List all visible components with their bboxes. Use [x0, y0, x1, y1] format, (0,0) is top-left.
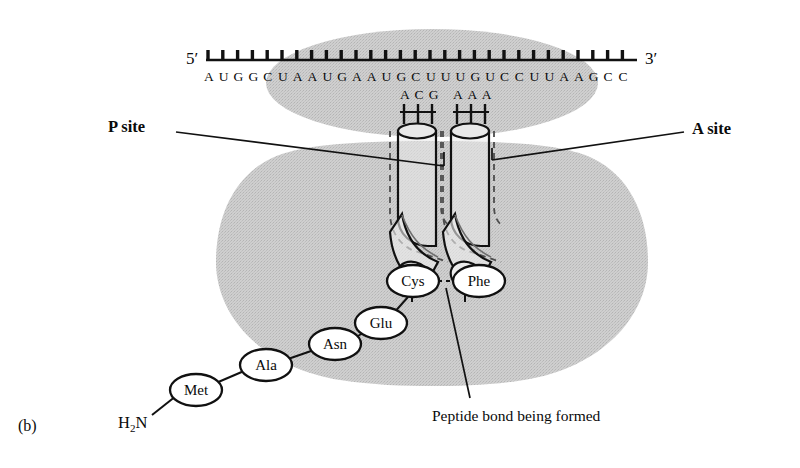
mrna-base: U: [278, 70, 288, 84]
p-site-anticodon-base: A: [400, 88, 410, 102]
mrna-base: U: [485, 70, 495, 84]
mrna-base: A: [293, 70, 303, 84]
a-site-label: A site: [692, 121, 731, 138]
a-site-anticodon-row: A A A: [453, 88, 501, 106]
mrna-base: G: [248, 70, 258, 84]
mrna-base: C: [263, 70, 272, 84]
mrna-base: G: [396, 70, 406, 84]
mrna-base: C: [500, 70, 509, 84]
mrna-base: A: [367, 70, 377, 84]
mrna-base: A: [352, 70, 362, 84]
mrna-base: C: [618, 70, 627, 84]
mrna-base: U: [530, 70, 540, 84]
residue-label-glu: Glu: [370, 316, 393, 331]
mrna-base: A: [574, 70, 584, 84]
mrna-base-row: A U G G C U A A U G A A U G C U U U G U …: [204, 70, 634, 88]
translation-figure: 5′ 3′ A U G G C U A A U G A A U G C U U …: [0, 0, 800, 468]
p-site-anticodon-base: G: [429, 88, 439, 102]
residue-label-cys: Cys: [401, 274, 424, 289]
n-terminus-n: N: [135, 413, 147, 432]
trna-a-site-top-cap: [451, 124, 489, 139]
mrna-base: U: [544, 70, 554, 84]
mrna-base: U: [441, 70, 451, 84]
link-met-ala: [216, 371, 244, 383]
p-site-anticodon-row: A C G: [400, 88, 448, 106]
mrna-base: G: [337, 70, 347, 84]
a-site-anticodon-base: A: [482, 88, 492, 102]
mrna-base: G: [470, 70, 480, 84]
residue-label-ala: Ala: [255, 358, 277, 373]
n-terminus-label: H2N: [118, 415, 147, 434]
mrna-base: A: [204, 70, 214, 84]
n-terminus-h: H: [118, 413, 130, 432]
p-site-label: P site: [108, 119, 145, 136]
residue-label-asn: Asn: [323, 337, 347, 352]
mrna-base: C: [515, 70, 524, 84]
a-site-anticodon-base: A: [453, 88, 463, 102]
link-nterm-met: [152, 396, 176, 415]
mrna-base: G: [589, 70, 599, 84]
residue-label-met: Met: [184, 383, 208, 398]
mrna-base: A: [559, 70, 569, 84]
p-site-anticodon-base: C: [414, 88, 423, 102]
peptide-bond-annotation: Peptide bond being formed: [432, 408, 600, 424]
panel-label: (b): [18, 418, 37, 434]
trna-p-site-top-cap: [398, 124, 436, 139]
a-site-anticodon-base: A: [467, 88, 477, 102]
mrna-three-prime-label: 3′: [645, 50, 657, 67]
mrna-base: C: [411, 70, 420, 84]
mrna-base: G: [234, 70, 244, 84]
mrna-base: U: [219, 70, 229, 84]
mrna-base: U: [382, 70, 392, 84]
mrna-base: U: [322, 70, 332, 84]
residue-label-phe: Phe: [468, 274, 491, 289]
mrna-base: U: [456, 70, 466, 84]
mrna-base: C: [604, 70, 613, 84]
mrna-five-prime-label: 5′: [186, 50, 198, 67]
mrna-base: U: [426, 70, 436, 84]
mrna-base: A: [308, 70, 318, 84]
